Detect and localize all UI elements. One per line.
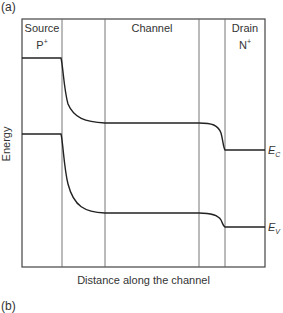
drain-name: Drain [232,22,258,34]
plot-frame [22,19,265,267]
drain-label: Drain N+ [225,22,265,52]
drain-doping-sup: + [247,38,251,45]
source-doping: P [36,39,43,51]
source-name: Source [25,22,60,34]
panel-b-label: (b) [1,299,16,313]
x-axis-label: Distance along the channel [22,274,265,286]
y-axis-label: Energy [0,124,12,164]
ev-label: EV [268,221,280,235]
drain-doping: N [239,39,247,51]
source-label: Source P+ [22,22,62,52]
source-doping-sup: + [44,38,48,45]
conduction-band-curve [22,58,265,150]
ev-sub: V [275,228,280,235]
valence-band-curve [22,134,265,227]
channel-label: Channel [105,22,199,34]
ec-sub: C [275,151,280,158]
ec-label: EC [268,144,280,158]
